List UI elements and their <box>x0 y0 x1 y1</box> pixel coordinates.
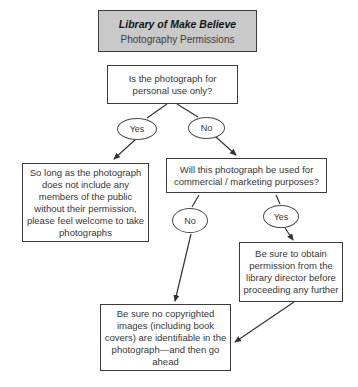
edge-q2-to-yes2 <box>276 195 280 204</box>
outcome-copyright-check: Be sure no copyrighted images (including… <box>100 304 231 371</box>
edge-no2-to-outcome-copyright <box>175 234 191 301</box>
edge-director-to-outcome-copyright <box>235 302 294 342</box>
branch-label-no-2: No <box>172 208 208 233</box>
decision-commercial-use: Will this photograph be used for commerc… <box>166 158 327 193</box>
edge-q1-to-no1 <box>177 104 198 117</box>
diagram-subtitle: Photography Permissions <box>121 34 235 45</box>
edge-yes2-to-outcome-director <box>285 228 293 240</box>
diagram-title: Library of Make Believe <box>119 18 236 30</box>
branch-label-yes-1: Yes <box>117 118 157 140</box>
outcome-director-permission: Be sure to obtain permission from the li… <box>239 242 343 302</box>
edge-q1-to-yes1 <box>147 104 167 118</box>
branch-label-no-1: No <box>188 117 225 139</box>
decision-personal-use: Is the photograph for personal use only? <box>107 65 238 104</box>
flowchart-canvas: Library of Make Believe Photography Perm… <box>0 0 358 387</box>
edge-q2-to-no2 <box>192 195 199 207</box>
edge-no1-to-q2 <box>216 137 236 155</box>
header-box: Library of Make Believe Photography Perm… <box>98 10 257 52</box>
branch-label-yes-2: Yes <box>263 205 299 228</box>
outcome-personal-use-ok: So long as the photograph does not inclu… <box>22 163 149 242</box>
edge-yes1-to-outcome-personal <box>114 139 136 159</box>
